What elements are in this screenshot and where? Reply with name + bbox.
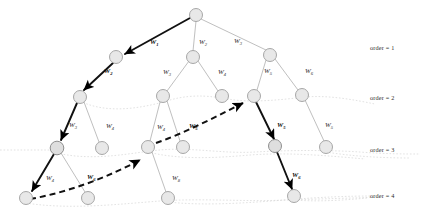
weight-subscript: 4	[224, 72, 227, 77]
edge-weight-label: W5	[325, 121, 334, 130]
weight-subscript: 4	[163, 127, 166, 132]
weight-subscript: 8	[178, 178, 181, 183]
weight-subscript: 1	[156, 42, 158, 47]
edge-weight-label: W1	[150, 38, 159, 47]
order-label-3: order = 3	[370, 146, 395, 153]
tree-node[interactable]	[216, 90, 229, 103]
tree-node[interactable]	[50, 141, 64, 155]
tree-node[interactable]	[190, 9, 203, 22]
weight-subscript: 6	[93, 177, 96, 182]
tree-node[interactable]	[96, 142, 109, 155]
tree-node[interactable]	[82, 192, 95, 205]
tree-node[interactable]	[177, 141, 190, 154]
edge-weight-label: W3	[69, 121, 78, 130]
weight-subscript: 5	[270, 71, 273, 76]
weight-subscript: 2	[109, 71, 113, 76]
tree-edges-thin	[61, 19, 324, 192]
tree-node[interactable]	[110, 51, 123, 64]
tree-node[interactable]	[157, 90, 170, 103]
tree-node[interactable]	[20, 192, 33, 205]
weight-subscript: 4	[52, 178, 55, 183]
tree-node[interactable]	[248, 90, 261, 103]
edge-weight-label: W5	[277, 121, 286, 130]
edge-weight-label: W8	[172, 174, 181, 183]
tree-node[interactable]	[320, 141, 333, 154]
edge-weight-label: W6	[87, 173, 96, 182]
order-label-2: order = 2	[370, 94, 395, 101]
tree-node[interactable]	[142, 141, 155, 154]
edge-weight-label: W4	[106, 122, 115, 131]
weight-subscript: 6	[298, 175, 301, 180]
weight-subscript: 5	[195, 126, 198, 131]
weight-subscript: 4	[112, 126, 115, 131]
tree-node[interactable]	[269, 140, 282, 153]
edge-weight-label: W5	[189, 122, 198, 131]
weight-subscript: 3	[75, 125, 78, 130]
edge-weight-label: W3	[163, 68, 172, 77]
weight-subscript: 2	[205, 42, 208, 47]
order-label-4: order = 4	[370, 192, 395, 199]
tree-node[interactable]	[74, 91, 87, 104]
weight-subscript: 3	[169, 72, 172, 77]
weight-subscript: 6	[311, 71, 314, 76]
figure-canvas: W1W2W3W2W3W4W5W6W3W4W4W5W5W5W4W6W8W6 ord…	[0, 0, 425, 219]
edge-weight-label: W5	[264, 67, 273, 76]
weight-subscript: 3	[240, 41, 243, 46]
edge-weight-label: W2	[104, 67, 113, 76]
edge-weight-label: W4	[157, 123, 166, 132]
edge-weight-label: W6	[292, 171, 301, 180]
weight-subscript: 5	[331, 125, 334, 130]
edge-weight-label: W2	[199, 38, 208, 47]
order-label-column: order = 1order = 2order = 3order = 4	[352, 0, 425, 219]
edge-weight-label: W4	[218, 68, 227, 77]
edge-weight-label: W6	[305, 67, 314, 76]
order-label-1: order = 1	[370, 44, 395, 51]
tree-node[interactable]	[264, 49, 277, 62]
tree-node[interactable]	[187, 51, 200, 64]
tree-node[interactable]	[162, 192, 175, 205]
tree-node[interactable]	[288, 190, 301, 203]
edge-weight-label: W4	[46, 174, 55, 183]
weight-subscript: 5	[283, 125, 286, 130]
tree-node[interactable]	[296, 89, 309, 102]
